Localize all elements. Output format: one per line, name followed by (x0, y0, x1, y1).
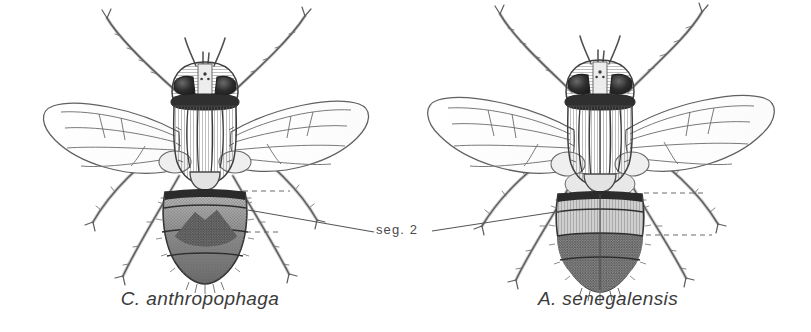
leader-line-right (432, 211, 562, 231)
specimen-right (428, 3, 775, 303)
figure-root: seg. 2 C. anthropophaga A. senegalensis (0, 0, 811, 332)
species-caption-left: C. anthropophaga (0, 288, 400, 310)
specimen-left (43, 7, 368, 294)
fly-comparison-plate (0, 0, 811, 332)
abdomen-right-specimen (549, 191, 651, 303)
thorax-left-specimen (171, 94, 239, 190)
abdomen-left-specimen (156, 189, 254, 294)
seg-2-annotation-label: seg. 2 (376, 222, 418, 237)
species-caption-right: A. senegalensis (408, 288, 808, 310)
